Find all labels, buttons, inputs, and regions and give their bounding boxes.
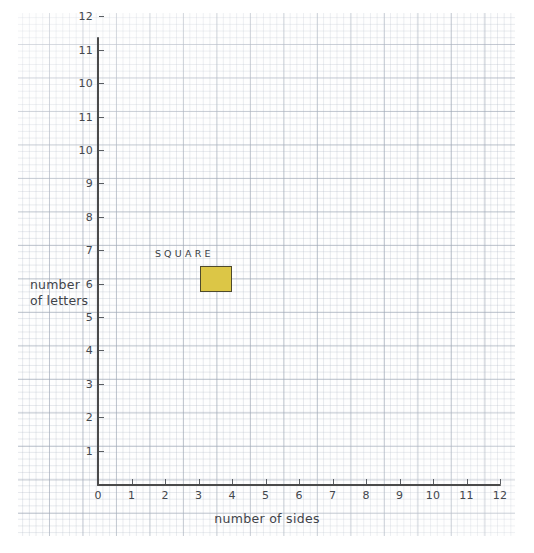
x-tick-mark-7 xyxy=(333,479,334,484)
x-tick-mark-5 xyxy=(266,479,267,484)
y-tick-mark-11 xyxy=(99,117,104,118)
x-tick-label-0: 0 xyxy=(87,489,109,502)
x-tick-label-3: 3 xyxy=(188,489,210,502)
y-tick-label-3: 3 xyxy=(71,377,93,390)
y-tick-label-11: 11 xyxy=(71,110,93,123)
graph-paper-worksheet: 1234567891011101112 0123456789101112 num… xyxy=(0,0,534,553)
data-point-label: SQUARE xyxy=(155,248,214,259)
x-tick-mark-12 xyxy=(500,479,501,484)
y-tick-mark-1 xyxy=(99,451,104,452)
y-tick-mark-12 xyxy=(99,83,104,84)
x-tick-mark-6 xyxy=(299,479,300,484)
x-tick-label-9: 9 xyxy=(389,489,411,502)
y-tick-label-4: 4 xyxy=(71,344,93,357)
y-axis-title-line-1: number xyxy=(30,277,94,293)
x-tick-mark-2 xyxy=(165,479,166,484)
data-point-square[interactable] xyxy=(200,266,232,292)
x-tick-mark-10 xyxy=(433,479,434,484)
y-tick-label-9: 9 xyxy=(71,177,93,190)
x-tick-label-6: 6 xyxy=(288,489,310,502)
x-tick-mark-11 xyxy=(467,479,468,484)
y-tick-label-1: 1 xyxy=(71,444,93,457)
x-tick-mark-3 xyxy=(199,479,200,484)
graph-paper-grid xyxy=(18,13,515,536)
x-tick-label-2: 2 xyxy=(154,489,176,502)
y-axis-line xyxy=(97,37,99,486)
x-tick-mark-1 xyxy=(132,479,133,484)
y-tick-label-12: 10 xyxy=(71,77,93,90)
x-axis-line xyxy=(97,484,501,486)
y-axis-title: number of letters xyxy=(30,277,94,309)
y-tick-mark-4 xyxy=(99,350,104,351)
x-tick-label-11: 11 xyxy=(456,489,478,502)
y-tick-label-10: 10 xyxy=(71,144,93,157)
x-axis-title: number of sides xyxy=(0,511,534,526)
y-tick-label-2: 2 xyxy=(71,411,93,424)
y-tick-mark-2 xyxy=(99,417,104,418)
y-tick-mark-10 xyxy=(99,150,104,151)
x-tick-label-10: 10 xyxy=(422,489,444,502)
y-tick-mark-6 xyxy=(99,284,104,285)
x-tick-mark-8 xyxy=(366,479,367,484)
x-tick-label-7: 7 xyxy=(322,489,344,502)
x-tick-mark-9 xyxy=(400,479,401,484)
y-tick-mark-9 xyxy=(99,183,104,184)
y-tick-mark-7 xyxy=(99,250,104,251)
y-tick-label-7: 7 xyxy=(71,244,93,257)
x-tick-mark-4 xyxy=(232,479,233,484)
x-tick-label-12: 12 xyxy=(489,489,511,502)
y-tick-mark-5 xyxy=(99,317,104,318)
y-tick-label-14: 12 xyxy=(71,10,93,23)
x-tick-label-4: 4 xyxy=(221,489,243,502)
x-tick-label-8: 8 xyxy=(355,489,377,502)
y-tick-mark-8 xyxy=(99,217,104,218)
y-tick-mark-14 xyxy=(99,16,104,17)
y-axis-title-line-2: of letters xyxy=(30,293,94,309)
x-tick-label-1: 1 xyxy=(121,489,143,502)
y-tick-mark-3 xyxy=(99,384,104,385)
y-tick-label-13: 11 xyxy=(71,43,93,56)
y-tick-label-8: 8 xyxy=(71,210,93,223)
y-tick-label-5: 5 xyxy=(71,311,93,324)
y-tick-mark-13 xyxy=(99,50,104,51)
x-tick-label-5: 5 xyxy=(255,489,277,502)
